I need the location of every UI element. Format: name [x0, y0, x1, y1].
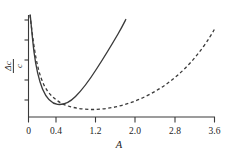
x-tick-label-1: 0.4 — [50, 126, 62, 136]
plot-area: 0 0.4 1.2 2.0 2.8 3.6 A Δc c — [0, 0, 235, 151]
y-axis-label-numerator: Δc — [3, 61, 13, 71]
x-axis-label: A — [115, 139, 123, 150]
series-dashed-curve — [30, 15, 215, 109]
y-axis-ticks — [25, 20, 29, 100]
x-tick-label-5: 3.6 — [209, 126, 221, 136]
x-tick-label-4: 2.8 — [169, 126, 181, 136]
x-tick-label-2: 1.2 — [90, 126, 102, 136]
y-axis-label-denominator: c — [14, 64, 24, 68]
y-axis-label: Δc c — [3, 59, 24, 73]
chart-figure: 0 0.4 1.2 2.0 2.8 3.6 A Δc c — [0, 0, 235, 151]
x-axis-ticks — [29, 117, 215, 123]
series-solid-curve — [30, 15, 126, 105]
x-tick-label-0: 0 — [26, 126, 31, 136]
x-tick-label-3: 2.0 — [129, 126, 141, 136]
